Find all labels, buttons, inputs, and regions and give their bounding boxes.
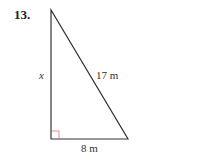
right-angle-marker	[51, 131, 59, 139]
vertical-leg-label: x	[39, 70, 44, 81]
right-triangle-figure	[0, 0, 223, 167]
horizontal-leg-label: 8 m	[81, 143, 98, 154]
hypotenuse-label: 17 m	[96, 70, 118, 81]
